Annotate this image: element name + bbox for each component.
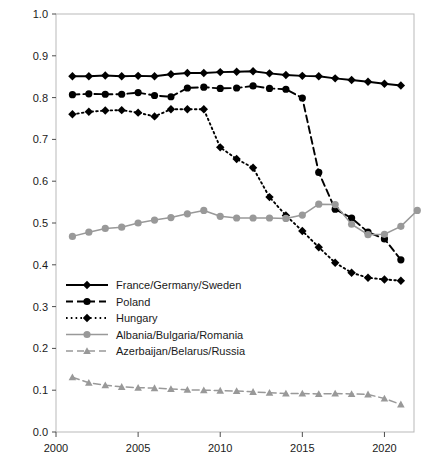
series-marker xyxy=(299,211,306,218)
series-marker xyxy=(217,213,224,220)
series-marker xyxy=(364,231,371,238)
x-tick-label: 2015 xyxy=(290,442,314,454)
series-marker xyxy=(118,91,125,98)
series-marker xyxy=(299,94,306,101)
series-marker xyxy=(68,72,76,80)
series-marker xyxy=(298,72,306,80)
series-marker xyxy=(69,373,77,380)
series-marker xyxy=(265,69,273,77)
series-marker xyxy=(200,84,207,91)
series-marker xyxy=(232,155,240,163)
series-marker xyxy=(397,401,405,408)
series-marker xyxy=(315,201,322,208)
y-tick-label: 0.3 xyxy=(33,301,48,313)
y-tick-label: 0.6 xyxy=(33,175,48,187)
legend-item[interactable]: Azerbaijan/Belarus/Russia xyxy=(66,345,246,357)
series-marker xyxy=(183,105,191,113)
y-tick-label: 0.4 xyxy=(33,259,48,271)
series-marker xyxy=(332,201,339,208)
series-marker xyxy=(167,105,175,113)
series-marker xyxy=(102,91,109,98)
series-marker xyxy=(380,275,388,283)
series-marker xyxy=(348,221,355,228)
legend-marker xyxy=(83,281,91,289)
series-marker xyxy=(232,67,240,75)
series-marker xyxy=(233,214,240,221)
x-tick-label: 2020 xyxy=(372,442,396,454)
series-marker xyxy=(68,110,76,118)
series-marker xyxy=(183,69,191,77)
legend-marker xyxy=(83,298,90,305)
series-marker xyxy=(266,214,273,221)
series-marker xyxy=(364,78,372,86)
legend-label: France/Germany/Sweden xyxy=(116,279,241,291)
x-tick-label: 2010 xyxy=(208,442,232,454)
series-marker xyxy=(282,86,289,93)
series-marker xyxy=(315,169,322,176)
chart-container: Liberal democracy (V-Dem index) 0.00.10.… xyxy=(0,0,426,476)
series-line xyxy=(72,109,400,280)
series-marker xyxy=(69,233,76,240)
legend-marker xyxy=(83,314,91,322)
series-marker xyxy=(117,72,125,80)
series-marker xyxy=(266,85,273,92)
series-marker xyxy=(364,274,372,282)
legend-label: Hungary xyxy=(116,312,158,324)
series-marker xyxy=(347,76,355,84)
y-tick-label: 0.9 xyxy=(33,50,48,62)
series-marker xyxy=(282,71,290,79)
series-marker xyxy=(184,210,191,217)
y-tick-label: 0.5 xyxy=(33,217,48,229)
y-tick-label: 0.7 xyxy=(33,133,48,145)
series-marker xyxy=(249,214,256,221)
series-marker xyxy=(200,105,208,113)
series-marker xyxy=(397,256,404,263)
series-marker xyxy=(364,391,372,398)
legend-item[interactable]: France/Germany/Sweden xyxy=(66,279,241,291)
chart-legend: France/Germany/SwedenPolandHungaryAlbani… xyxy=(66,279,246,357)
series-marker xyxy=(233,84,240,91)
line-chart-plot: 0.00.10.20.30.40.50.60.70.80.91.02000200… xyxy=(0,0,426,476)
series-marker xyxy=(118,224,125,231)
series-marker xyxy=(134,72,142,80)
series-marker xyxy=(85,72,93,80)
series-marker xyxy=(347,269,355,277)
series-marker xyxy=(135,89,142,96)
x-tick-label: 2005 xyxy=(126,442,150,454)
series-marker xyxy=(217,85,224,92)
y-tick-label: 0.8 xyxy=(33,92,48,104)
series-marker xyxy=(69,91,76,98)
series-marker xyxy=(414,207,421,214)
x-tick-label: 2000 xyxy=(44,442,68,454)
series-marker xyxy=(167,93,174,100)
legend-item[interactable]: Albania/Bulgaria/Romania xyxy=(66,329,244,341)
legend-label: Poland xyxy=(116,296,150,308)
plot-frame xyxy=(56,14,414,432)
legend-item[interactable]: Hungary xyxy=(66,312,158,324)
series-marker xyxy=(331,74,339,82)
series-marker xyxy=(135,219,142,226)
series-marker xyxy=(249,164,257,172)
series-marker xyxy=(102,225,109,232)
series-marker xyxy=(150,112,158,120)
series-marker xyxy=(167,70,175,78)
y-tick-label: 0.2 xyxy=(33,342,48,354)
series-marker xyxy=(151,92,158,99)
series-marker xyxy=(397,81,405,89)
series-marker xyxy=(315,72,323,80)
y-tick-label: 1.0 xyxy=(33,8,48,20)
legend-label: Albania/Bulgaria/Romania xyxy=(116,329,244,341)
series-marker xyxy=(381,231,388,238)
series-marker xyxy=(101,106,109,114)
y-tick-label: 0.1 xyxy=(33,384,48,396)
series-marker xyxy=(117,106,125,114)
legend-item[interactable]: Poland xyxy=(66,296,150,308)
series-marker xyxy=(151,216,158,223)
data-series xyxy=(68,105,405,285)
data-series xyxy=(69,201,421,240)
series-marker xyxy=(134,108,142,116)
series-marker xyxy=(380,80,388,88)
series-marker xyxy=(101,71,109,79)
series-marker xyxy=(249,82,256,89)
series-marker xyxy=(85,229,92,236)
